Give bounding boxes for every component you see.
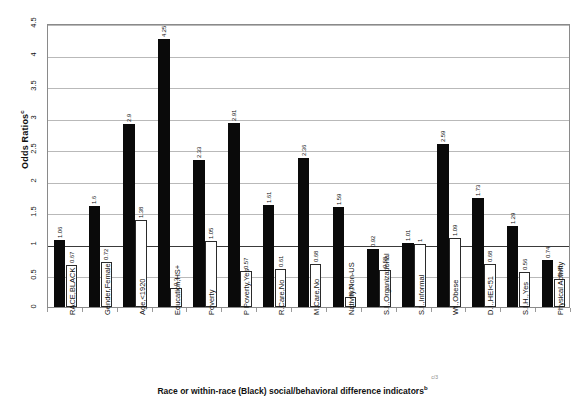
x-axis-tick-mark [431,308,432,312]
bar-black [54,240,66,307]
bar-value-label: 1.29 [510,212,516,223]
x-axis-category-label: Wt.,Obese [451,280,460,315]
x-axis-category-label: S.I.,Informal [417,275,426,315]
bar-group: 2.331.05 [193,25,217,307]
y-axis-tick-label: 0 [29,294,38,320]
x-axis-category-label: Physical Activity [556,262,565,315]
bar-value-label: 1.38 [138,207,144,218]
y-axis-tick-label: 4 [29,41,38,67]
y-axis-tick-label: 1 [29,230,38,256]
x-axis-category-label: M.Care,No [312,279,321,315]
bar-black [402,243,414,307]
x-axis-tick-mark [221,308,222,312]
bar-group: 2.360.68 [298,25,322,307]
bar-value-label: 1.05 [208,227,214,238]
bar-group: 1.011 [402,25,426,307]
bar-black [542,260,554,307]
bar-value-label: 1.6 [91,196,97,204]
x-axis-category-label: Education,HS+ [173,265,182,315]
y-axis-tick-label: 4.5 [29,10,38,36]
bar-black [437,144,449,307]
bar-value-label: 1.01 [405,230,411,241]
x-axis-tick-mark [291,308,292,312]
x-axis-tick-mark [535,308,536,312]
x-axis-category-label: D.I.,HEI<51 [486,276,495,315]
bar-value-label: 2.36 [301,145,307,156]
bar-black [158,39,170,307]
x-axis-category-label: R.Care,No [277,280,286,315]
bar-black [263,205,275,307]
bar-value-label: 0.68 [313,251,319,262]
plot-area: 1.060.671.60.722.91.384.250.32.331.052.9… [47,24,570,308]
odds-ratio-bar-chart: Odds Ratiosc 00.511.522.533.544.5 1.060.… [0,0,585,404]
bar-value-label: 0.68 [487,251,493,262]
bar-value-label: 2.9 [126,114,132,122]
bar-black [367,249,379,307]
bar-black [193,160,205,307]
bar-value-label: 1 [417,239,423,242]
bar-value-label: 2.91 [231,110,237,121]
bar-value-label: 2.33 [196,147,202,158]
bar-group: 1.290.56 [507,25,531,307]
x-axis-title-text: Race or within-race (Black) social/behav… [157,386,423,396]
x-axis-tick-mark [500,308,501,312]
bar-value-label: 0.67 [69,251,75,262]
bar-value-label: 0.74 [545,247,551,258]
x-axis-tick-mark [396,308,397,312]
x-axis-tick-mark [117,308,118,312]
y-axis-tick-label: 0.5 [29,262,38,288]
x-axis-tick-mark [465,308,466,312]
bar-black [123,124,135,307]
bar-value-label: 0.56 [522,258,528,269]
bar-group: 1.610.61 [263,25,287,307]
bar-black [298,158,310,307]
x-axis-tick-mark [256,308,257,312]
bar-black [228,123,240,307]
bar-series-container: 1.060.671.60.722.91.384.250.32.331.052.9… [48,25,569,307]
x-axis-category-label: Nativity,Non-US [347,262,356,315]
x-axis-tick-mark [361,308,362,312]
y-axis-tick-label: 1.5 [29,199,38,225]
bar-group: 2.591.09 [437,25,461,307]
x-axis-category-label: Poverty [207,290,216,315]
x-axis-tick-mark [82,308,83,312]
bar-black [472,198,484,307]
x-axis-tick-mark [326,308,327,312]
bar-value-label: 0.61 [278,255,284,266]
bar-value-label: 2.59 [440,130,446,141]
bar-group: 1.060.67 [54,25,78,307]
x-axis-category-label: RACE,BLACK [68,267,77,315]
x-axis-title-superscript: b [424,385,428,391]
bar-value-label: 1.59 [336,193,342,204]
bar-value-label: 1.09 [452,225,458,236]
x-axis-tick-mark [152,308,153,312]
bar-value-label: 1.61 [266,192,272,203]
bar-black [89,206,101,307]
bar-value-label: 1.73 [475,185,481,196]
bar-value-label: 0.72 [103,248,109,259]
bar-group: 1.730.68 [472,25,496,307]
x-axis-category-label: S.I.,Organizational [382,253,391,315]
bar-group: 2.91.38 [123,25,147,307]
bar-value-label: 0.57 [243,258,249,269]
x-axis-category-label: S.I.H.,Yes [521,282,530,315]
x-axis-tick-mark [47,308,48,312]
x-axis-category-label: Gender,Female [103,263,112,315]
x-axis-category-label: P Poverty,Yes [242,269,251,315]
bar-group: 2.910.57 [228,25,252,307]
bar-value-label: 4.25 [161,26,167,37]
page-artifact-mark: c/3 [431,374,438,380]
bar-black [507,226,519,307]
bar-value-label: 1.06 [57,227,63,238]
x-axis-tick-mark [570,308,571,312]
x-axis-category-label: Age,<1920 [138,279,147,316]
y-axis-tick-label: 3 [29,104,38,130]
x-axis-tick-mark [186,308,187,312]
bar-value-label: 0.92 [370,236,376,247]
y-axis-tick-label: 2 [29,167,38,193]
bar-black [333,207,345,307]
x-axis-title: Race or within-race (Black) social/behav… [0,385,585,396]
y-axis-tick-label: 3.5 [29,73,38,99]
y-axis-title-superscript: c [19,110,25,114]
y-axis-tick-label: 2.5 [29,136,38,162]
